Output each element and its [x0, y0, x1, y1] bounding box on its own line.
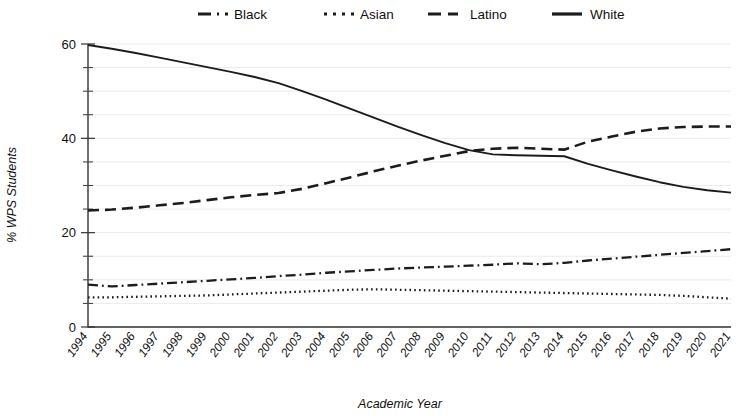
series-line-black — [88, 249, 731, 286]
y-tick-label: 60 — [62, 37, 76, 52]
x-tick-label: 1995 — [87, 329, 114, 359]
x-tick-label: 1999 — [183, 329, 210, 359]
x-tick-label: 2007 — [373, 329, 401, 361]
legend-label-white: White — [590, 7, 625, 22]
y-axis-title: % WPS Students — [5, 147, 19, 243]
x-tick-label: 2016 — [587, 329, 615, 360]
series-line-latino — [88, 127, 731, 211]
series-lines — [88, 45, 731, 299]
legend-label-black: Black — [234, 7, 267, 22]
x-tick-label: 2002 — [254, 329, 282, 360]
x-tick-label: 1997 — [135, 329, 163, 360]
x-tick-label: 1998 — [159, 329, 186, 359]
x-tick-label: 2012 — [492, 329, 520, 360]
x-tick-label: 2010 — [444, 329, 472, 360]
x-tick-labels: 1994199519961997199819992000200120022003… — [64, 329, 734, 361]
x-tick-label: 2018 — [635, 329, 663, 360]
series-line-white — [88, 45, 731, 193]
x-tick-label: 2000 — [206, 329, 234, 360]
x-tick-label: 2017 — [611, 329, 639, 361]
x-tick-label: 2015 — [563, 329, 591, 360]
x-tick-label: 2021 — [706, 330, 733, 361]
x-tick-label: 2009 — [420, 329, 448, 360]
x-tick-label: 2013 — [516, 329, 544, 360]
line-chart: BlackAsianLatinoWhite 0204060 1994199519… — [0, 0, 740, 416]
y-tick-label: 20 — [62, 225, 76, 240]
gridlines — [88, 44, 731, 327]
chart-container: BlackAsianLatinoWhite 0204060 1994199519… — [0, 0, 740, 416]
legend-label-asian: Asian — [360, 7, 394, 22]
x-tick-label: 2014 — [539, 329, 567, 360]
y-tick-label: 40 — [62, 131, 76, 146]
x-tick-label: 2019 — [658, 329, 686, 360]
x-tick-label: 1996 — [111, 329, 138, 359]
y-tick-label: 0 — [69, 320, 76, 335]
x-axis-title: Academic Year — [357, 397, 443, 411]
x-tick-label: 1994 — [64, 329, 91, 359]
y-tick-labels: 0204060 — [62, 37, 76, 335]
legend-label-latino: Latino — [470, 7, 507, 22]
x-tick-label: 2020 — [682, 329, 710, 360]
x-tick-label: 2004 — [301, 329, 329, 360]
x-tick-label: 2003 — [277, 329, 305, 360]
series-line-asian — [88, 289, 731, 298]
x-tick-label: 2001 — [230, 330, 257, 361]
x-tick-label: 2006 — [349, 329, 377, 360]
x-tick-label: 2008 — [397, 329, 425, 360]
x-tick-label: 2011 — [468, 330, 495, 360]
x-tick-label: 2005 — [325, 329, 353, 360]
legend: BlackAsianLatinoWhite — [198, 7, 625, 22]
